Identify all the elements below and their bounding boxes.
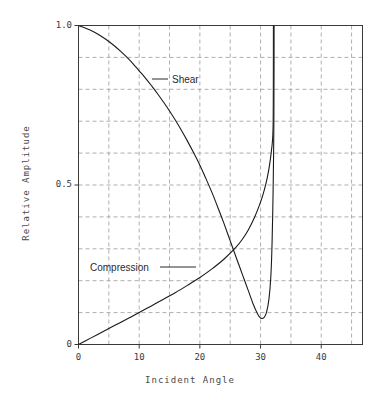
y-tick-label: 1.0 [30, 20, 72, 30]
y-tick-label: 0.5 [30, 179, 72, 189]
x-tick-label: 30 [241, 352, 281, 362]
x-tick-label: 0 [59, 352, 99, 362]
series-label-shear: Shear [172, 74, 199, 85]
x-tick-label: 40 [301, 352, 341, 362]
y-tick-label: 0 [30, 339, 72, 349]
x-axis-title: Incident Angle [0, 375, 380, 385]
x-tick-label: 20 [180, 352, 220, 362]
series-label-compression: Compression [90, 262, 149, 273]
x-tick-label: 10 [119, 352, 159, 362]
